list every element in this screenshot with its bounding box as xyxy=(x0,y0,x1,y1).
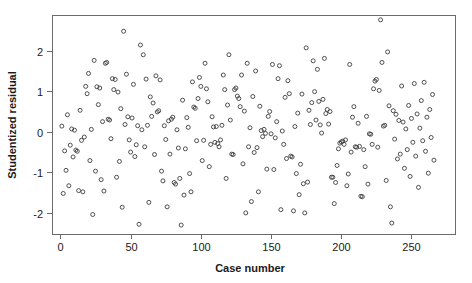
data-point xyxy=(416,185,420,189)
data-point xyxy=(119,107,123,111)
data-point xyxy=(145,123,149,127)
data-point xyxy=(176,146,180,150)
data-point xyxy=(199,84,203,88)
data-point xyxy=(219,138,223,142)
data-point xyxy=(377,88,381,92)
data-point xyxy=(283,95,287,99)
x-tick-label: 50 xyxy=(125,241,137,253)
data-point xyxy=(268,110,272,114)
data-point xyxy=(421,139,425,143)
data-point xyxy=(376,145,380,149)
data-point xyxy=(276,77,280,81)
data-point xyxy=(160,169,164,173)
y-tick-label: -1 xyxy=(33,167,43,179)
data-point xyxy=(240,73,244,77)
x-tick-label: 150 xyxy=(262,241,280,253)
data-point xyxy=(99,178,103,182)
data-point xyxy=(397,118,401,122)
data-point xyxy=(432,158,436,162)
data-point xyxy=(422,80,426,84)
data-point xyxy=(175,128,179,132)
data-points-layer xyxy=(60,18,436,227)
data-point xyxy=(153,153,157,157)
data-point xyxy=(186,125,190,129)
data-point xyxy=(388,205,392,209)
y-tick-label: 0 xyxy=(37,127,43,139)
data-point xyxy=(336,147,340,151)
data-point xyxy=(426,171,430,175)
data-point xyxy=(200,159,204,163)
x-tick-label: 0 xyxy=(57,241,63,253)
data-point xyxy=(117,159,121,163)
data-point xyxy=(408,174,412,178)
data-point xyxy=(335,163,339,167)
data-point xyxy=(424,149,428,153)
data-point xyxy=(303,211,307,215)
data-point xyxy=(141,53,145,57)
data-point xyxy=(77,189,81,193)
data-point xyxy=(346,172,350,176)
data-point xyxy=(287,92,291,96)
plot-canvas: 050100150200250 -2-1012 Case number Stud… xyxy=(0,0,472,283)
data-point xyxy=(348,62,352,66)
data-point xyxy=(151,101,155,105)
data-point xyxy=(140,128,144,132)
data-point xyxy=(214,125,218,129)
data-point xyxy=(124,72,128,76)
data-point xyxy=(183,147,187,151)
data-point xyxy=(209,142,213,146)
data-point xyxy=(67,184,71,188)
x-axis-tick-labels: 050100150200250 xyxy=(57,241,420,253)
data-point xyxy=(68,143,72,147)
data-point xyxy=(419,99,423,103)
data-point xyxy=(84,84,88,88)
data-point xyxy=(81,190,85,194)
data-point xyxy=(102,189,106,193)
data-point xyxy=(203,61,207,65)
data-point xyxy=(241,162,245,166)
data-point xyxy=(150,114,154,118)
data-point xyxy=(431,92,435,96)
data-point xyxy=(398,152,402,156)
data-point xyxy=(196,97,200,101)
data-point xyxy=(387,104,391,108)
data-point xyxy=(226,103,230,107)
data-point xyxy=(126,115,130,119)
data-point xyxy=(412,82,416,86)
data-point xyxy=(190,80,194,84)
data-point xyxy=(428,107,432,111)
data-point xyxy=(254,69,258,73)
data-point xyxy=(356,121,360,125)
data-point xyxy=(168,152,172,156)
data-point xyxy=(82,135,86,139)
data-point xyxy=(221,73,225,77)
x-tick-label: 250 xyxy=(402,241,420,253)
data-point xyxy=(138,43,142,47)
data-point xyxy=(404,127,408,131)
data-point xyxy=(379,18,383,22)
data-point xyxy=(366,182,370,186)
data-point xyxy=(292,209,296,213)
data-point xyxy=(115,175,119,179)
y-axis-ticks xyxy=(47,52,52,214)
data-point xyxy=(310,101,314,105)
x-axis-title: Case number xyxy=(215,262,285,274)
data-point xyxy=(179,223,183,227)
data-point xyxy=(311,59,315,63)
data-point xyxy=(91,213,95,217)
data-point xyxy=(197,75,201,79)
data-point xyxy=(109,137,113,141)
data-point xyxy=(429,135,433,139)
data-point xyxy=(255,146,259,150)
data-point xyxy=(64,168,68,172)
data-point xyxy=(296,111,300,115)
data-point xyxy=(363,165,367,169)
data-point xyxy=(127,138,131,142)
data-point xyxy=(256,190,260,194)
data-point xyxy=(270,62,274,66)
x-tick-label: 100 xyxy=(192,241,210,253)
data-point xyxy=(161,179,165,183)
data-point xyxy=(60,124,64,128)
data-point xyxy=(144,77,148,81)
data-point xyxy=(395,157,399,161)
